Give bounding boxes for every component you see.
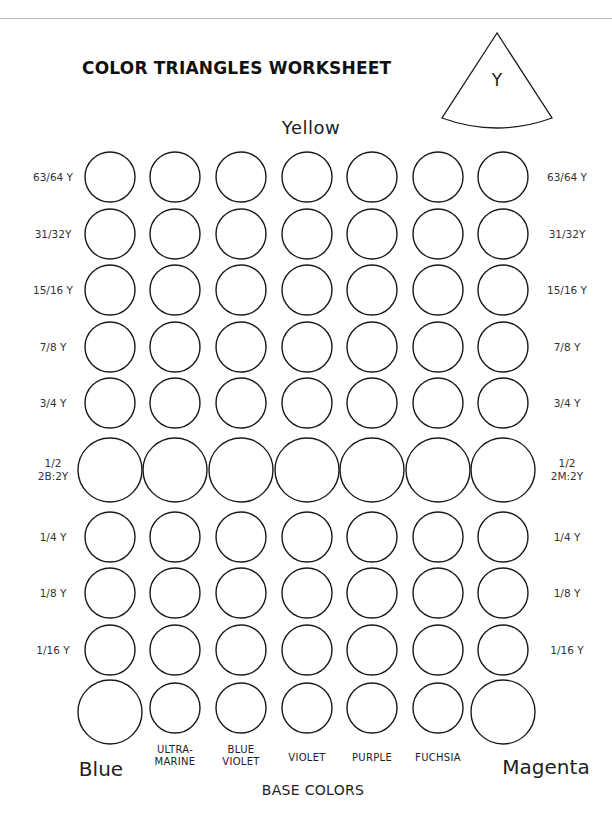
mix-circle[interactable] bbox=[150, 152, 200, 202]
mix-circle[interactable] bbox=[150, 265, 200, 315]
mix-circle[interactable] bbox=[85, 512, 135, 562]
base-color-circle[interactable] bbox=[78, 680, 142, 744]
mix-circle[interactable] bbox=[347, 265, 397, 315]
mix-circle[interactable] bbox=[150, 378, 200, 428]
mix-circle[interactable] bbox=[216, 625, 266, 675]
right-base-label: Magenta bbox=[502, 755, 589, 779]
mix-circle[interactable] bbox=[150, 322, 200, 372]
mix-circle[interactable] bbox=[150, 209, 200, 259]
mix-circle[interactable] bbox=[282, 568, 332, 618]
mix-circle[interactable] bbox=[478, 322, 528, 372]
mix-circle[interactable] bbox=[413, 265, 463, 315]
row-label-left: 1/16 Y bbox=[36, 644, 69, 657]
mix-circle[interactable] bbox=[347, 322, 397, 372]
base-color-circle[interactable] bbox=[413, 683, 463, 733]
mix-circle[interactable] bbox=[216, 265, 266, 315]
mix-circle[interactable] bbox=[347, 512, 397, 562]
row-label-right: 1/16 Y bbox=[550, 644, 583, 657]
mix-circle[interactable] bbox=[143, 438, 207, 502]
mix-circle[interactable] bbox=[478, 209, 528, 259]
mix-circle[interactable] bbox=[216, 152, 266, 202]
row-label-right: 63/64 Y bbox=[547, 171, 587, 184]
mix-circle[interactable] bbox=[478, 378, 528, 428]
mix-circle[interactable] bbox=[85, 378, 135, 428]
base-color-circle[interactable] bbox=[347, 683, 397, 733]
row-label-right: 1/4 Y bbox=[554, 531, 581, 544]
mix-circle[interactable] bbox=[478, 568, 528, 618]
mix-circle[interactable] bbox=[209, 438, 273, 502]
mix-circle[interactable] bbox=[85, 209, 135, 259]
mix-circle[interactable] bbox=[413, 378, 463, 428]
mix-circle[interactable] bbox=[347, 568, 397, 618]
mix-circle[interactable] bbox=[478, 625, 528, 675]
mix-circle[interactable] bbox=[347, 378, 397, 428]
mix-circle[interactable] bbox=[85, 152, 135, 202]
row-label-right: 1/22M:2Y bbox=[551, 457, 583, 483]
mix-circle[interactable] bbox=[347, 152, 397, 202]
mix-circle[interactable] bbox=[282, 265, 332, 315]
mix-circle[interactable] bbox=[216, 512, 266, 562]
mix-circle[interactable] bbox=[216, 322, 266, 372]
base-column-label: VIOLET bbox=[288, 752, 325, 764]
top-color-label: Yellow bbox=[0, 117, 612, 138]
mix-circle[interactable] bbox=[406, 438, 470, 502]
mix-circle[interactable] bbox=[413, 512, 463, 562]
row-label-left: 15/16 Y bbox=[33, 284, 73, 297]
mix-circle[interactable] bbox=[282, 152, 332, 202]
mix-circle[interactable] bbox=[216, 568, 266, 618]
base-column-label: ULTRA-MARINE bbox=[155, 744, 196, 768]
mix-circle[interactable] bbox=[282, 322, 332, 372]
wedge-label: Y bbox=[492, 70, 502, 90]
mix-circle[interactable] bbox=[216, 378, 266, 428]
mix-circle[interactable] bbox=[413, 625, 463, 675]
mix-circle[interactable] bbox=[413, 568, 463, 618]
base-color-circle[interactable] bbox=[216, 683, 266, 733]
base-color-circle[interactable] bbox=[150, 683, 200, 733]
base-column-label: BLUEVIOLET bbox=[222, 744, 259, 768]
mix-circle[interactable] bbox=[85, 265, 135, 315]
row-label-left: 7/8 Y bbox=[40, 341, 67, 354]
mix-circle[interactable] bbox=[275, 438, 339, 502]
mix-circle[interactable] bbox=[347, 209, 397, 259]
row-label-right: 7/8 Y bbox=[554, 341, 581, 354]
row-label-left: 3/4 Y bbox=[40, 397, 67, 410]
mix-circle[interactable] bbox=[85, 568, 135, 618]
row-label-right: 31/32Y bbox=[549, 228, 586, 241]
mix-circle[interactable] bbox=[413, 152, 463, 202]
row-label-left: 31/32Y bbox=[35, 228, 72, 241]
mix-circle[interactable] bbox=[340, 438, 404, 502]
mix-circle[interactable] bbox=[282, 209, 332, 259]
mix-circle[interactable] bbox=[150, 625, 200, 675]
mix-circle[interactable] bbox=[347, 625, 397, 675]
mix-circle[interactable] bbox=[282, 625, 332, 675]
left-base-label: Blue bbox=[79, 757, 123, 781]
row-label-right: 1/8 Y bbox=[554, 587, 581, 600]
mix-circle[interactable] bbox=[282, 512, 332, 562]
mix-circle[interactable] bbox=[413, 209, 463, 259]
circle-grid bbox=[78, 152, 535, 744]
mix-circle[interactable] bbox=[150, 568, 200, 618]
row-label-left: 63/64 Y bbox=[33, 171, 73, 184]
base-color-circle[interactable] bbox=[471, 680, 535, 744]
row-label-left: 1/4 Y bbox=[40, 531, 67, 544]
mix-circle[interactable] bbox=[478, 265, 528, 315]
base-column-label: PURPLE bbox=[352, 752, 392, 764]
mix-circle[interactable] bbox=[413, 322, 463, 372]
mix-circle[interactable] bbox=[478, 512, 528, 562]
mix-circle[interactable] bbox=[85, 625, 135, 675]
base-colors-caption: BASE COLORS bbox=[0, 782, 612, 798]
mix-circle[interactable] bbox=[85, 322, 135, 372]
mix-circle[interactable] bbox=[78, 438, 142, 502]
mix-circle[interactable] bbox=[216, 209, 266, 259]
mix-circle[interactable] bbox=[150, 512, 200, 562]
mix-circle[interactable] bbox=[478, 152, 528, 202]
row-label-left: 1/8 Y bbox=[40, 587, 67, 600]
base-column-label: FUCHSIA bbox=[415, 752, 461, 764]
row-label-right: 15/16 Y bbox=[547, 284, 587, 297]
mix-circle[interactable] bbox=[471, 438, 535, 502]
row-label-right: 3/4 Y bbox=[554, 397, 581, 410]
mix-circle[interactable] bbox=[282, 378, 332, 428]
base-color-circle[interactable] bbox=[282, 683, 332, 733]
row-label-left: 1/22B:2Y bbox=[38, 457, 69, 483]
